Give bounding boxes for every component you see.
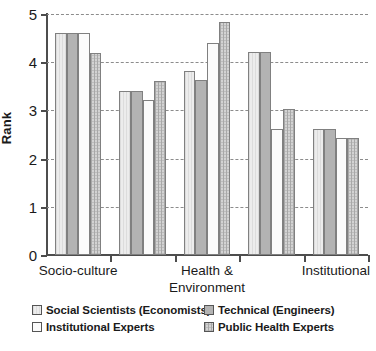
- legend-item-technical[interactable]: Technical (Engineers): [204, 304, 335, 316]
- x-tick-mark: [304, 255, 306, 262]
- bar: [184, 71, 196, 255]
- bar: [260, 52, 272, 255]
- bar: [131, 91, 143, 255]
- y-tick-label: 3: [29, 102, 37, 119]
- bar: [347, 138, 359, 255]
- x-axis-category-label: Socio-culture: [39, 262, 118, 279]
- plot-area: 012345: [46, 14, 368, 255]
- chart-legend: Social Scientists (Economists) Technical…: [32, 304, 352, 338]
- bar: [219, 22, 231, 255]
- bar: [324, 129, 336, 255]
- legend-row: Institutional Experts Public Health Expe…: [32, 321, 352, 333]
- bar: [119, 91, 131, 255]
- bar: [248, 52, 260, 255]
- bar: [154, 81, 166, 255]
- legend-swatch-icon: [204, 322, 214, 332]
- y-tick-mark: [41, 159, 47, 161]
- legend-swatch-icon: [204, 305, 214, 315]
- legend-row: Social Scientists (Economists) Technical…: [32, 304, 352, 316]
- y-tick-mark: [41, 14, 47, 16]
- bar: [143, 100, 155, 255]
- bar: [283, 109, 295, 255]
- y-axis-title: Rank: [0, 112, 14, 145]
- y-tick-mark: [41, 110, 47, 112]
- legend-label: Social Scientists (Economists): [46, 304, 210, 316]
- y-tick-mark: [41, 255, 47, 257]
- gridline: [46, 14, 368, 15]
- legend-label: Technical (Engineers): [218, 304, 335, 316]
- y-tick-label: 5: [29, 6, 37, 23]
- legend-label: Institutional Experts: [46, 321, 154, 333]
- bar: [67, 33, 79, 255]
- bar: [313, 129, 325, 255]
- legend-swatch-icon: [32, 322, 42, 332]
- y-tick-label: 2: [29, 150, 37, 167]
- y-tick-mark: [41, 207, 47, 209]
- x-axis-category-label: Health &Environment: [169, 262, 245, 296]
- x-axis-category-label: Institutional: [302, 262, 370, 279]
- y-tick-label: 4: [29, 54, 37, 71]
- legend-item-institutional-experts[interactable]: Institutional Experts: [32, 321, 204, 333]
- bar: [90, 53, 102, 255]
- x-tick-mark: [368, 255, 370, 262]
- x-tick-mark: [175, 255, 177, 262]
- bar: [336, 138, 348, 255]
- bar: [78, 33, 90, 255]
- bar: [271, 129, 283, 255]
- bar: [207, 43, 219, 255]
- x-tick-mark: [110, 255, 112, 262]
- bar: [195, 80, 207, 255]
- y-tick-label: 0: [29, 247, 37, 264]
- legend-item-social-scientists[interactable]: Social Scientists (Economists): [32, 304, 204, 316]
- y-tick-mark: [41, 62, 47, 64]
- x-tick-mark: [239, 255, 241, 262]
- legend-item-public-health-experts[interactable]: Public Health Experts: [204, 321, 334, 333]
- y-tick-label: 1: [29, 198, 37, 215]
- bar-chart-figure: Rank 012345 Social Scientists (Economist…: [0, 0, 376, 351]
- legend-swatch-icon: [32, 305, 42, 315]
- legend-label: Public Health Experts: [218, 321, 334, 333]
- bar: [55, 33, 67, 255]
